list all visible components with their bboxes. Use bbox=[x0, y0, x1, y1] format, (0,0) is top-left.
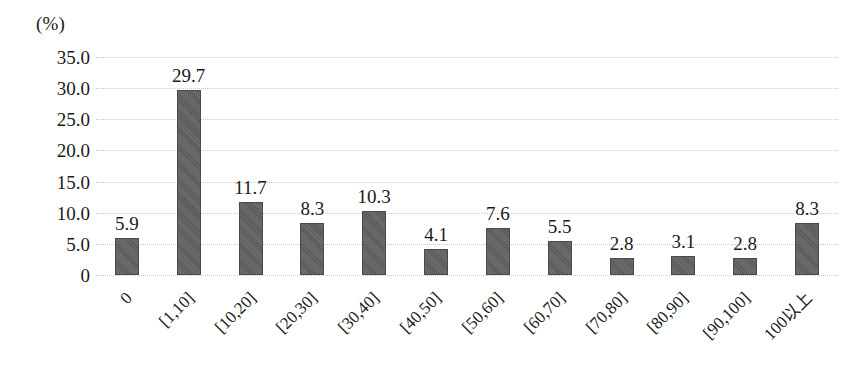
y-axis-tick-label: 0 bbox=[34, 266, 90, 285]
bar bbox=[177, 90, 201, 275]
bar-group: 5.9 bbox=[96, 57, 158, 275]
bar-group: 2.8 bbox=[591, 57, 653, 275]
bar bbox=[300, 223, 324, 275]
x-axis-tick-labels: 0[1,10][10,20][20,30][30,40][40,50][50,6… bbox=[96, 275, 838, 386]
bar bbox=[362, 211, 386, 275]
bar-value-label: 5.5 bbox=[548, 217, 572, 236]
y-axis-tick-label: 15.0 bbox=[34, 172, 90, 191]
bar-series: 5.929.711.78.310.34.17.65.52.83.12.88.3 bbox=[96, 57, 838, 275]
bar bbox=[115, 238, 139, 275]
x-axis-tick: [10,20] bbox=[220, 275, 282, 386]
bar-group: 2.8 bbox=[714, 57, 776, 275]
bar bbox=[486, 228, 510, 275]
y-axis-tick-label: 5.0 bbox=[34, 234, 90, 253]
bar bbox=[424, 249, 448, 275]
y-axis-tick-label: 10.0 bbox=[34, 203, 90, 222]
plot-area: 5.929.711.78.310.34.17.65.52.83.12.88.3 bbox=[96, 57, 838, 275]
bar-group: 3.1 bbox=[653, 57, 715, 275]
bar bbox=[671, 256, 695, 275]
bar bbox=[610, 258, 634, 275]
bar-group: 8.3 bbox=[282, 57, 344, 275]
bar-chart: (%) 05.010.015.020.025.030.035.0 5.929.7… bbox=[0, 0, 864, 386]
x-axis-tick: 100以上 bbox=[776, 275, 838, 386]
y-axis-unit-label: (%) bbox=[36, 14, 65, 33]
bar-value-label: 7.6 bbox=[486, 204, 510, 223]
bar-value-label: 11.7 bbox=[234, 178, 267, 197]
y-axis-tick-label: 20.0 bbox=[34, 141, 90, 160]
bar-group: 29.7 bbox=[158, 57, 220, 275]
y-axis-tick-label: 30.0 bbox=[34, 79, 90, 98]
x-axis-tick-label-text: 0 bbox=[117, 289, 135, 307]
y-axis-tick-labels: 05.010.015.020.025.030.035.0 bbox=[30, 57, 90, 275]
bar-group: 8.3 bbox=[776, 57, 838, 275]
bar-value-label: 5.9 bbox=[115, 214, 139, 233]
bar-value-label: 3.1 bbox=[672, 232, 696, 251]
x-axis-tick: [20,30] bbox=[282, 275, 344, 386]
y-axis-tick-label: 25.0 bbox=[34, 110, 90, 129]
bar-group: 4.1 bbox=[405, 57, 467, 275]
bar-value-label: 8.3 bbox=[301, 199, 325, 218]
x-axis-tick-label: 0 bbox=[123, 283, 141, 301]
x-axis-tick: 0 bbox=[96, 275, 158, 386]
bar-value-label: 29.7 bbox=[172, 66, 205, 85]
bar-value-label: 8.3 bbox=[795, 199, 819, 218]
x-axis-tick-label-text: [1,10] bbox=[156, 289, 197, 330]
bar bbox=[548, 241, 572, 275]
x-axis-tick: [40,50] bbox=[405, 275, 467, 386]
x-axis-tick: [60,70] bbox=[529, 275, 591, 386]
y-axis-tick-label: 35.0 bbox=[34, 48, 90, 67]
bar-group: 10.3 bbox=[343, 57, 405, 275]
bar-group: 7.6 bbox=[467, 57, 529, 275]
bar bbox=[733, 258, 757, 275]
x-axis-tick: [30,40] bbox=[343, 275, 405, 386]
x-axis-tick: [50,60] bbox=[467, 275, 529, 386]
bar-group: 5.5 bbox=[529, 57, 591, 275]
x-axis-tick: [1,10] bbox=[158, 275, 220, 386]
bar bbox=[795, 223, 819, 275]
bar-value-label: 10.3 bbox=[358, 187, 391, 206]
bar-value-label: 2.8 bbox=[733, 234, 757, 253]
x-axis-tick: [70,80] bbox=[591, 275, 653, 386]
bar bbox=[239, 202, 263, 275]
bar-group: 11.7 bbox=[220, 57, 282, 275]
bar-value-label: 4.1 bbox=[424, 225, 448, 244]
bar-value-label: 2.8 bbox=[610, 234, 634, 253]
